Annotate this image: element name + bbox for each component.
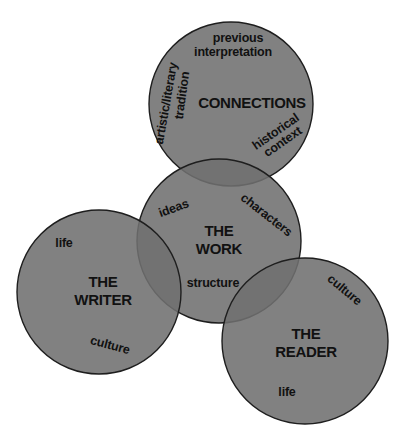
label-interpretation: interpretation bbox=[194, 45, 272, 59]
label-writer-life: life bbox=[55, 236, 73, 250]
label-writer-title-line1: THE bbox=[88, 273, 117, 290]
label-writer-title-line2: WRITER bbox=[74, 291, 132, 308]
label-reader-title-line1: THE bbox=[291, 325, 320, 342]
venn-diagram: previous interpretation artistic/literar… bbox=[0, 0, 403, 441]
label-structure: structure bbox=[187, 276, 240, 290]
label-work-title-line1: THE bbox=[204, 222, 233, 239]
label-previous: previous bbox=[213, 31, 264, 45]
label-reader-title-line2: READER bbox=[275, 343, 337, 360]
circle-group bbox=[17, 22, 388, 424]
label-work-title-line2: WORK bbox=[196, 240, 243, 257]
label-connections-title: CONNECTIONS bbox=[198, 94, 306, 111]
label-reader-life: life bbox=[278, 385, 296, 399]
